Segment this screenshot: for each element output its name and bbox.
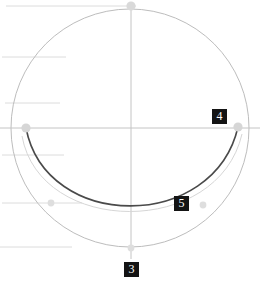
handle-lower-left-icon[interactable] [48,200,55,207]
handle-lower-right-icon[interactable] [200,202,207,209]
faint-secondary-arc [22,134,242,212]
catenary-arc [26,127,238,206]
vertex-badge-4[interactable]: 4 [212,109,227,124]
handle-bottom-icon[interactable] [128,245,135,252]
handle-right-icon[interactable] [233,122,242,131]
diagram-canvas-container: 4 5 3 [0,0,260,287]
vertex-badge-5[interactable]: 5 [174,196,189,211]
vertex-badge-3[interactable]: 3 [124,262,139,277]
handle-top-icon[interactable] [126,1,135,10]
geometry-diagram [0,0,260,287]
handle-left-icon[interactable] [21,123,30,132]
